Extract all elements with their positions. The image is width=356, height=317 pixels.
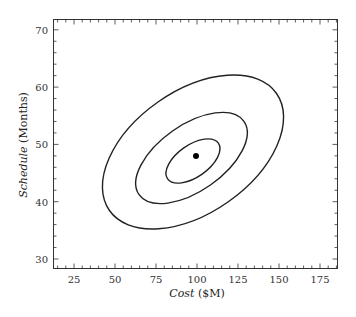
contour-inner — [158, 130, 227, 192]
tick-label: 60 — [35, 82, 48, 93]
tick-labels: 2550751001251501753040506070 — [35, 25, 329, 285]
tick-label: 100 — [187, 274, 206, 285]
contour-outer — [74, 44, 311, 261]
tick-label: 50 — [109, 274, 122, 285]
tick-label: 125 — [228, 274, 247, 285]
tick-label: 70 — [35, 25, 48, 36]
center-point — [193, 153, 199, 159]
axis-ticks — [54, 20, 338, 269]
tick-label: 50 — [35, 139, 48, 150]
tick-label: 150 — [269, 274, 288, 285]
contour-lines — [74, 44, 311, 261]
tick-label: 40 — [35, 197, 48, 208]
contour-chart: 2550751001251501753040506070 Cost ($M) S… — [0, 0, 356, 317]
tick-label: 75 — [150, 274, 163, 285]
tick-label: 30 — [35, 254, 48, 265]
y-axis-label: Schedule (Months) — [17, 92, 30, 198]
tick-label: 25 — [68, 274, 81, 285]
contour-middle — [120, 94, 263, 221]
x-axis-label: Cost ($M) — [169, 287, 224, 300]
plot-frame — [54, 20, 338, 269]
tick-label: 175 — [310, 274, 329, 285]
